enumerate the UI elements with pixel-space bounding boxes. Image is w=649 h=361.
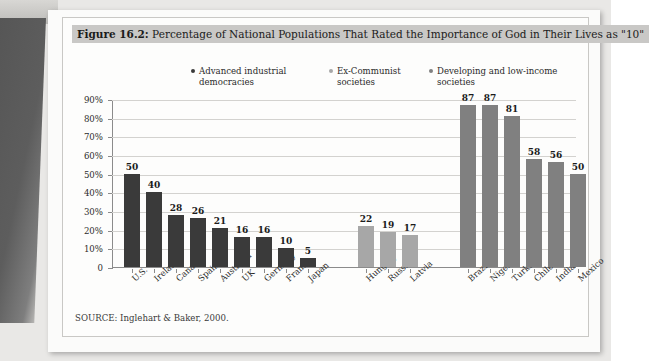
bar-rect <box>300 258 316 267</box>
y-axis-tick-label: 80% <box>84 114 103 124</box>
figure-source: SOURCE: Inglehart & Baker, 2000. <box>75 313 229 323</box>
bar[interactable]: 16 <box>256 237 272 267</box>
bar-value-label: 40 <box>148 180 161 190</box>
bar[interactable]: 22 <box>358 226 374 267</box>
bar[interactable]: 50 <box>124 174 140 267</box>
bar-rect <box>124 174 140 267</box>
bar-rect <box>190 218 206 267</box>
bar-value-label: 87 <box>462 93 475 103</box>
bar[interactable]: 26 <box>190 218 206 267</box>
bar-value-label: 26 <box>192 206 205 216</box>
legend-dot-icon <box>329 69 333 73</box>
bar-rect <box>402 235 418 267</box>
bar-value-label: 22 <box>360 214 373 224</box>
bar-value-label: 16 <box>258 225 271 235</box>
bar-rect <box>460 105 476 267</box>
figure-title-band: Figure 16.2: Percentage of National Popu… <box>72 25 649 43</box>
bar-rect <box>234 237 250 267</box>
figure-container: Figure 16.2: Percentage of National Popu… <box>62 17 589 337</box>
bar-value-label: 19 <box>382 220 395 230</box>
bar-rect <box>548 162 564 267</box>
bar-rect <box>146 192 162 267</box>
bar-value-label: 10 <box>280 236 293 246</box>
figure-number: Figure 16.2: <box>77 28 149 40</box>
bar-rect <box>482 105 498 267</box>
bar[interactable]: 81 <box>504 116 520 267</box>
bar-rect <box>256 237 272 267</box>
legend-item-1: Advanced industrial democracies <box>191 66 321 88</box>
figure-title-text: Percentage of National Populations That … <box>152 28 644 40</box>
bar[interactable]: 28 <box>168 215 184 267</box>
bar-rect <box>380 232 396 267</box>
y-axis-tick-label: 90% <box>84 95 103 105</box>
gridline <box>112 100 576 101</box>
bar-rect <box>212 228 228 267</box>
bar-value-label: 28 <box>170 203 183 213</box>
y-axis-tick-label: 40% <box>84 188 103 198</box>
legend-label: Advanced industrial democracies <box>199 66 321 88</box>
legend-item-3: Developing and low-income societies <box>429 66 579 88</box>
y-axis-tick-label: 60% <box>84 151 103 161</box>
bar-rect <box>526 159 542 267</box>
bar-value-label: 81 <box>506 104 519 114</box>
y-axis-line <box>112 100 113 269</box>
bar-value-label: 21 <box>214 216 227 226</box>
bar-rect <box>278 248 294 267</box>
y-axis-tick-label: 70% <box>84 132 103 142</box>
plot-area: 50U.S.40Ireland28Canada26Spain21Australi… <box>112 100 576 268</box>
bar[interactable]: 16 <box>234 237 250 267</box>
bar-value-label: 50 <box>572 162 585 172</box>
bar[interactable]: 21 <box>212 228 228 267</box>
y-axis-tick-label: 10% <box>84 244 103 254</box>
legend-dot-icon <box>429 69 433 73</box>
y-axis-tick-label: 0 <box>98 263 103 273</box>
bar-rect <box>504 116 520 267</box>
bar-rect <box>358 226 374 267</box>
bar[interactable]: 10 <box>278 248 294 267</box>
bar[interactable]: 50 <box>570 174 586 267</box>
legend-label: Ex-Communist societies <box>337 66 424 88</box>
legend-label: Developing and low-income societies <box>437 66 579 88</box>
y-axis-tick-label: 20% <box>84 226 103 236</box>
bar-value-label: 56 <box>550 150 563 160</box>
bar-value-label: 50 <box>126 162 139 172</box>
bar[interactable]: 87 <box>460 105 476 267</box>
y-axis-tick-label: 50% <box>84 170 103 180</box>
y-axis: 90%80%70%60%50%40%30%20%10%0 <box>72 100 108 268</box>
chart-legend: Advanced industrial democraciesEx-Commun… <box>181 66 581 92</box>
bar-value-label: 87 <box>484 93 497 103</box>
bar-value-label: 58 <box>528 147 541 157</box>
bar-rect <box>570 174 586 267</box>
bar-rect <box>168 215 184 267</box>
bar[interactable]: 56 <box>548 162 564 267</box>
bar[interactable]: 87 <box>482 105 498 267</box>
legend-item-2: Ex-Communist societies <box>329 66 424 88</box>
bar-value-label: 5 <box>305 246 311 256</box>
bar[interactable]: 40 <box>146 192 162 267</box>
plot-wrapper: 90%80%70%60%50%40%30%20%10%0 50U.S.40Ire… <box>72 100 580 285</box>
bar[interactable]: 17 <box>402 235 418 267</box>
bar[interactable]: 19 <box>380 232 396 267</box>
bar-value-label: 17 <box>404 223 417 233</box>
y-axis-tick-label: 30% <box>84 207 103 217</box>
bar[interactable]: 58 <box>526 159 542 267</box>
bar[interactable]: 5 <box>300 258 316 267</box>
bar-value-label: 16 <box>236 225 249 235</box>
legend-dot-icon <box>191 69 195 73</box>
